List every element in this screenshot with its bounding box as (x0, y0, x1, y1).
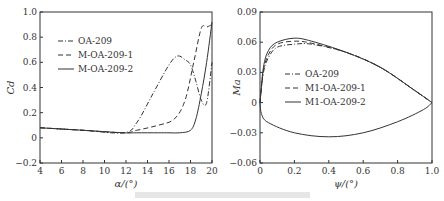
y-tick-label: 0.8 (23, 32, 38, 42)
x-axis-label: α/(°) (115, 178, 138, 189)
y-axis-label: Ma (231, 79, 242, 96)
x-tick-label: 8 (80, 166, 86, 176)
y-tick-label: 1.0 (23, 7, 38, 17)
chart-2: 00.20.40.60.81.0−0.06−0.0300.030.060.09ψ… (229, 7, 439, 189)
legend-entry: M1-OA-209-1 (305, 83, 366, 93)
x-tick-label: 0.2 (287, 166, 301, 176)
x-axis-label: ψ/(°) (334, 178, 358, 189)
series-line (260, 103, 432, 137)
legend-entry: M-OA-209-1 (78, 50, 133, 60)
x-tick-label: 20 (206, 166, 218, 176)
x-tick-label: 0 (257, 166, 263, 176)
y-tick-label: −0.03 (229, 128, 257, 138)
legend-entry: M-OA-209-2 (78, 64, 133, 74)
legend-entry: OA-209 (78, 36, 112, 46)
x-tick-label: 0.6 (356, 166, 371, 176)
x-tick-label: 10 (99, 166, 111, 176)
y-tick-label: 0.6 (23, 57, 38, 67)
x-tick-label: 12 (120, 166, 131, 176)
y-tick-label: 0.03 (237, 67, 257, 77)
y-tick-label: 0 (31, 133, 37, 143)
x-tick-label: 16 (163, 166, 175, 176)
y-tick-label: −0.2 (15, 158, 37, 168)
legend-entry: M1-OA-209-2 (305, 97, 366, 107)
figure-caption (135, 192, 310, 198)
x-tick-label: 4 (37, 166, 43, 176)
y-tick-label: 0.09 (237, 7, 257, 17)
figure: 468101214161820−0.200.20.40.60.81.0α/(°)… (0, 0, 444, 201)
y-axis-label: Cd (5, 80, 16, 94)
y-tick-label: 0.2 (23, 108, 37, 118)
y-tick-label: −0.06 (229, 158, 257, 168)
x-tick-label: 6 (59, 166, 65, 176)
x-tick-label: 0.4 (322, 166, 337, 176)
x-tick-label: 0.8 (390, 166, 405, 176)
plot-frame (40, 12, 212, 163)
legend-entry: OA-209 (305, 69, 339, 79)
y-tick-label: 0.4 (23, 83, 38, 93)
chart-1: 468101214161820−0.200.20.40.60.81.0α/(°)… (5, 7, 218, 189)
y-tick-label: 0.06 (237, 37, 257, 47)
x-tick-label: 18 (185, 166, 197, 176)
x-tick-label: 1.0 (425, 166, 440, 176)
series-line (260, 41, 432, 102)
x-tick-label: 14 (142, 166, 154, 176)
series-line (40, 22, 212, 133)
y-tick-label: 0 (251, 98, 257, 108)
